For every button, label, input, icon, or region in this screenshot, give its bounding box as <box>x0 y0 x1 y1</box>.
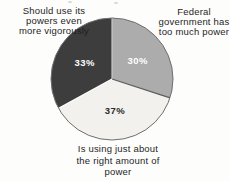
pie-chart-figure: 30%37%33% Should use its powers even mor… <box>0 0 230 181</box>
pie-percent-label-right-amount: 37% <box>105 105 126 116</box>
slice-label-use-more-vigorously: Should use its powers even more vigorous… <box>0 6 114 36</box>
pie-percent-label-too-much-power: 30% <box>127 55 148 66</box>
slice-label-right-amount: Is using just about the right amount of … <box>48 143 188 178</box>
slice-label-too-much-power: Federal government has too much power <box>134 7 230 37</box>
pie-percent-label-use-more-vigorously: 33% <box>74 57 95 68</box>
